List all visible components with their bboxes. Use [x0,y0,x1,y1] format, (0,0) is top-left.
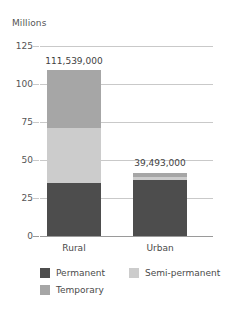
legend-label-permanent: Permanent [56,268,105,278]
y-tick-label-125: 125 [16,41,33,51]
legend-item-semi-permanent[interactable]: Semi-permanent [129,268,220,278]
y-axis-unit-label: Millions [12,18,46,28]
plot-area [40,46,213,236]
bar-urban-segment-temporary[interactable] [133,173,187,177]
gridline-0-baseline [40,236,213,237]
bar-rural[interactable] [47,70,101,236]
legend-row-2: Temporary [40,285,226,298]
bar-value-label-rural: 111,539,000 [45,56,102,66]
stacked-bar-chart: Millions 125 100 75 50 25 0 111,539,000 … [0,0,226,317]
legend-swatch-semi-permanent-icon [129,268,139,278]
tick-stub-100 [33,84,39,85]
tick-stub-25 [33,198,39,199]
gridline-125 [40,46,213,47]
legend-swatch-temporary-icon [40,285,50,295]
bar-urban[interactable] [133,173,187,236]
y-tick-label-25: 25 [22,193,33,203]
legend-item-temporary[interactable]: Temporary [40,285,104,295]
legend-label-semi-permanent: Semi-permanent [145,268,220,278]
bar-urban-segment-semi-permanent[interactable] [133,177,187,180]
legend-label-temporary: Temporary [56,285,104,295]
y-tick-label-75: 75 [22,117,33,127]
y-axis-tick-labels: 125 100 75 50 25 0 [0,46,33,236]
bar-rural-segment-temporary[interactable] [47,70,101,128]
tick-stub-125 [33,46,39,47]
bar-rural-segment-semi-permanent[interactable] [47,128,101,183]
tick-stub-0 [33,236,39,237]
x-axis-label-rural: Rural [62,243,85,253]
bar-rural-segment-permanent[interactable] [47,183,101,236]
tick-stub-75 [33,122,39,123]
legend-item-permanent[interactable]: Permanent [40,268,105,278]
y-tick-label-50: 50 [22,155,33,165]
bar-urban-segment-permanent[interactable] [133,180,187,236]
bar-value-label-urban: 39,493,000 [134,158,186,168]
legend-swatch-permanent-icon [40,268,50,278]
tick-stub-50 [33,160,39,161]
y-tick-label-100: 100 [16,79,33,89]
legend-row-1: Permanent Semi-permanent [40,268,226,281]
x-axis-label-urban: Urban [146,243,173,253]
